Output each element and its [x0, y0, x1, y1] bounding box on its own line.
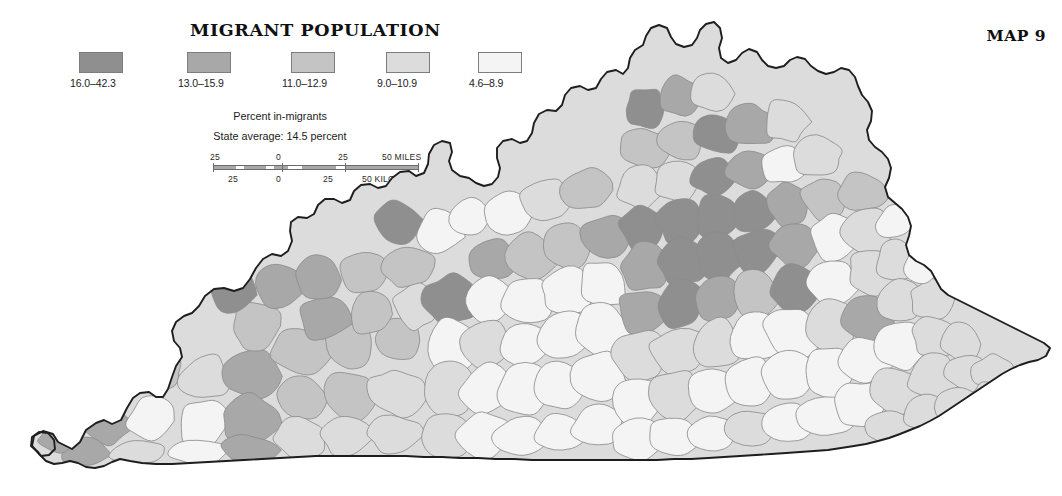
county-region — [626, 89, 664, 128]
county-region — [80, 358, 127, 408]
county-region — [1000, 375, 1029, 405]
county-region — [934, 387, 983, 423]
county-layer — [31, 22, 1050, 468]
kentucky-choropleth-map — [0, 0, 1062, 496]
county-region — [340, 252, 388, 292]
county-region — [129, 351, 181, 392]
